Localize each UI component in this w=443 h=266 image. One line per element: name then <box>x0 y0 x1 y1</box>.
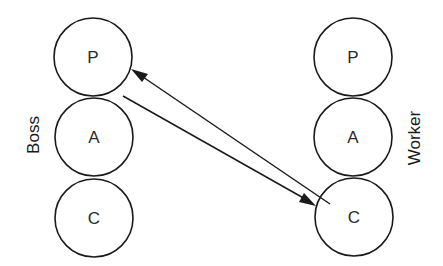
boss-node-a: A <box>55 98 133 176</box>
worker-node-c-label: C <box>348 208 360 227</box>
worker-group: Worker P A C <box>314 18 424 256</box>
boss-node-c: C <box>55 179 133 257</box>
arrow-boss-p-to-worker-c <box>123 96 316 206</box>
boss-node-a-label: A <box>88 128 100 147</box>
worker-node-c: C <box>315 178 393 256</box>
boss-label: Boss <box>24 116 43 154</box>
boss-group: Boss P A C <box>24 18 134 257</box>
boss-node-c-label: C <box>88 209 100 228</box>
arrow-worker-c-to-boss-p <box>131 69 330 204</box>
worker-node-p-label: P <box>347 48 358 67</box>
arrowhead-icon <box>131 69 148 82</box>
worker-node-p: P <box>314 18 392 96</box>
arrowhead-icon <box>299 193 316 206</box>
worker-node-a: A <box>314 98 392 176</box>
boss-node-p-label: P <box>87 48 98 67</box>
worker-label: Worker <box>405 110 424 165</box>
diagram-canvas: Boss P A C Worker P A C <box>0 0 443 266</box>
boss-node-p: P <box>54 18 132 96</box>
worker-node-a-label: A <box>347 128 359 147</box>
